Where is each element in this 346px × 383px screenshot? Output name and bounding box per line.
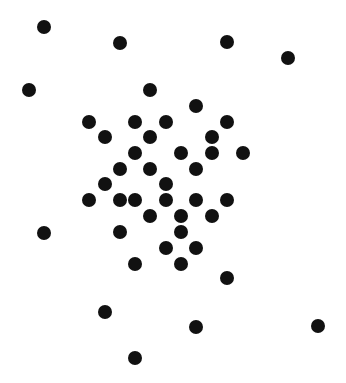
dot: [189, 241, 203, 255]
dot: [143, 83, 157, 97]
dot: [220, 35, 234, 49]
dot: [82, 115, 96, 129]
dot: [189, 320, 203, 334]
dot: [205, 209, 219, 223]
dot: [143, 130, 157, 144]
dot: [174, 146, 188, 160]
dot: [128, 351, 142, 365]
dot: [174, 257, 188, 271]
dot: [220, 193, 234, 207]
dot: [113, 193, 127, 207]
dot: [143, 162, 157, 176]
dot: [143, 209, 157, 223]
dot: [37, 226, 51, 240]
dot: [311, 319, 325, 333]
dot: [281, 51, 295, 65]
dot: [189, 99, 203, 113]
dot: [174, 209, 188, 223]
dot: [128, 115, 142, 129]
dot: [113, 162, 127, 176]
dot: [220, 115, 234, 129]
dot: [189, 193, 203, 207]
dot: [128, 146, 142, 160]
dot: [205, 146, 219, 160]
dot: [113, 225, 127, 239]
dot: [98, 177, 112, 191]
dot: [37, 20, 51, 34]
dot: [98, 130, 112, 144]
dot: [189, 162, 203, 176]
dot: [159, 241, 173, 255]
dot: [159, 193, 173, 207]
dot: [128, 193, 142, 207]
dot: [22, 83, 36, 97]
dot-pattern: [0, 0, 346, 383]
dot: [205, 130, 219, 144]
dot-pattern-canvas: [0, 0, 346, 383]
dot: [128, 257, 142, 271]
dot: [174, 225, 188, 239]
dot: [82, 193, 96, 207]
dot: [113, 36, 127, 50]
dot: [98, 305, 112, 319]
dot: [159, 115, 173, 129]
dot: [236, 146, 250, 160]
dot: [159, 177, 173, 191]
dot: [220, 271, 234, 285]
